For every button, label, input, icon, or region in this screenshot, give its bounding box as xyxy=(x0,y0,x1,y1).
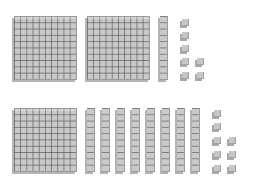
ten-rod-block xyxy=(147,108,155,172)
unit-cube-block xyxy=(229,165,236,172)
ten-rod-block xyxy=(192,108,200,172)
ten-rod-block xyxy=(162,108,170,172)
hundred-flat-block xyxy=(14,108,77,172)
bottom-row-blocks: 188 xyxy=(0,0,255,183)
unit-cube-block xyxy=(229,151,236,158)
unit-cube-block xyxy=(214,123,221,130)
unit-cube-block xyxy=(214,151,221,158)
ten-rod-block xyxy=(117,108,125,172)
ten-rod-block xyxy=(102,108,110,172)
unit-cube-block xyxy=(214,137,221,144)
unit-cube-block xyxy=(214,110,221,117)
ten-rod-block xyxy=(87,108,95,172)
unit-cube-block xyxy=(214,165,221,172)
unit-cube-block xyxy=(229,137,236,144)
ten-rod-block xyxy=(177,108,185,172)
ten-rod-block xyxy=(132,108,140,172)
